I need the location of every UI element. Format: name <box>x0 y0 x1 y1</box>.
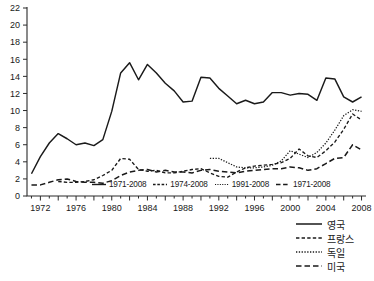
y-tick-label: 12 <box>10 89 20 99</box>
x-tick-label: 2008 <box>352 203 372 213</box>
country-legend: 영국 프랑스 독일 미국 <box>296 217 372 273</box>
range-legend-label: 1971-2008 <box>109 180 146 189</box>
legend-swatch-solid <box>296 220 322 228</box>
x-tick-label: 1992 <box>209 203 229 213</box>
range-legend-label: 1974-2008 <box>170 180 207 189</box>
legend-label-france: 프랑스 <box>327 231 354 246</box>
legend-label-germany: 독일 <box>327 245 345 260</box>
x-tick-label: 1972 <box>30 203 50 213</box>
y-tick-label: 14 <box>10 72 20 82</box>
range-legend-item: 1971-2008 <box>92 180 146 189</box>
legend-label-usa: 미국 <box>327 259 345 274</box>
range-swatch-long-dash <box>276 181 290 188</box>
range-legend-label: 1971-2008 <box>293 180 330 189</box>
y-tick-label: 2 <box>15 174 20 184</box>
x-tick-label: 1980 <box>102 203 122 213</box>
x-tick-label: 2004 <box>316 203 336 213</box>
y-tick-label: 20 <box>10 20 20 30</box>
range-swatch-solid <box>92 181 106 188</box>
series-line-프랑스 <box>58 114 361 182</box>
range-legend-item: 1991-2008 <box>215 180 269 189</box>
series-line-독일 <box>210 110 362 168</box>
y-tick-label: 0 <box>15 191 20 201</box>
line-chart: 0246810121416182022197219761980198419881… <box>0 0 374 281</box>
inline-range-legend: 1971-2008 1974-2008 1991-2008 1971-2008 <box>92 178 370 191</box>
legend-swatch-dashed <box>296 234 322 242</box>
x-tick-label: 1976 <box>66 203 86 213</box>
y-tick-label: 10 <box>10 106 20 116</box>
range-swatch-dotted <box>215 181 229 188</box>
x-tick-label: 1996 <box>244 203 264 213</box>
y-tick-label: 18 <box>10 37 20 47</box>
range-swatch-dashed <box>153 181 167 188</box>
y-tick-label: 6 <box>15 140 20 150</box>
series-line-영국 <box>31 63 361 174</box>
legend-label-uk: 영국 <box>327 217 345 232</box>
legend-swatch-long-dash <box>296 262 322 270</box>
y-tick-label: 4 <box>15 157 20 167</box>
x-tick-label: 1984 <box>137 203 157 213</box>
x-tick-label: 1988 <box>173 203 193 213</box>
y-tick-label: 16 <box>10 55 20 65</box>
legend-item-france: 프랑스 <box>296 231 372 245</box>
axis-lines <box>27 7 366 196</box>
legend-item-usa: 미국 <box>296 259 372 273</box>
legend-swatch-dotted <box>296 248 322 256</box>
range-legend-item: 1971-2008 <box>276 180 330 189</box>
y-tick-label: 8 <box>15 123 20 133</box>
range-legend-label: 1991-2008 <box>232 180 269 189</box>
legend-item-uk: 영국 <box>296 217 372 231</box>
range-legend-item: 1974-2008 <box>153 180 207 189</box>
y-tick-label: 22 <box>10 3 20 13</box>
legend-item-germany: 독일 <box>296 245 372 259</box>
x-tick-label: 2000 <box>280 203 300 213</box>
